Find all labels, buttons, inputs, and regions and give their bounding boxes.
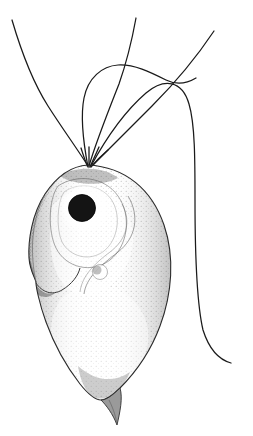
cell-body-group [20,155,190,425]
contractile-vacuole-shadow [93,266,102,275]
illustration-canvas [0,0,253,436]
flagellum-left [12,20,88,166]
flagellum-short-right [92,31,214,166]
flagellum-central [89,18,136,166]
flagellate-illustration [0,0,253,436]
